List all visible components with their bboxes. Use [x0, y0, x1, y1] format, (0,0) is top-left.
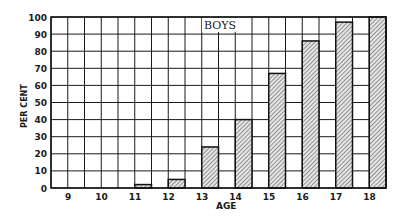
y-tick-label: 30	[34, 132, 47, 142]
x-axis-label: AGE	[216, 201, 237, 211]
x-tick-label: 11	[129, 192, 142, 202]
y-tick-label: 70	[34, 64, 47, 74]
chart-title: BOYS	[204, 19, 236, 32]
y-tick-label: 90	[34, 30, 47, 40]
y-tick-label: 100	[28, 13, 47, 23]
y-tick-label: 50	[34, 98, 47, 108]
y-tick-label: 0	[41, 184, 47, 194]
y-axis-ticks: 0102030405060708090100	[28, 13, 47, 194]
bar-age-12	[168, 179, 185, 188]
bar-chart: 0102030405060708090100 91011121314151617…	[0, 0, 405, 221]
y-tick-label: 10	[34, 166, 47, 176]
chart-canvas: 0102030405060708090100 91011121314151617…	[0, 0, 405, 221]
y-tick-label: 40	[34, 115, 47, 125]
x-tick-label: 9	[65, 192, 71, 202]
x-tick-label: 16	[296, 192, 309, 202]
x-tick-label: 10	[95, 192, 108, 202]
y-tick-label: 60	[34, 81, 47, 91]
x-tick-label: 13	[196, 192, 209, 202]
bar-age-16	[302, 41, 319, 188]
y-tick-label: 80	[34, 47, 47, 57]
bar-age-13	[202, 147, 219, 188]
x-tick-label: 18	[363, 192, 376, 202]
y-tick-label: 20	[34, 149, 47, 159]
x-tick-label: 12	[162, 192, 175, 202]
bar-age-17	[336, 22, 353, 188]
bar-age-14	[235, 120, 252, 188]
bar-age-18	[369, 17, 386, 188]
x-tick-label: 17	[330, 192, 343, 202]
bar-age-15	[269, 73, 286, 188]
x-tick-label: 15	[263, 192, 276, 202]
y-axis-label: PER CENT	[20, 84, 29, 128]
